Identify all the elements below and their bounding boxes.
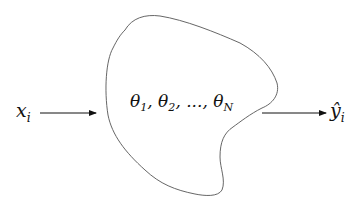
param-2: θ2 bbox=[158, 91, 175, 111]
output-label: ŷi bbox=[330, 99, 345, 125]
param-1: θ1 bbox=[130, 91, 147, 111]
separator: , bbox=[147, 91, 158, 111]
output-subscript: i bbox=[341, 111, 345, 125]
parameters-label: θ1, θ2, ..., θN bbox=[130, 91, 233, 114]
output-symbol: ŷ bbox=[330, 99, 341, 121]
ellipsis: ..., bbox=[186, 91, 208, 111]
input-symbol: x bbox=[16, 99, 27, 121]
input-label: xi bbox=[16, 99, 31, 125]
param-n: θN bbox=[213, 91, 233, 111]
input-subscript: i bbox=[27, 111, 31, 125]
separator: , bbox=[175, 91, 186, 111]
